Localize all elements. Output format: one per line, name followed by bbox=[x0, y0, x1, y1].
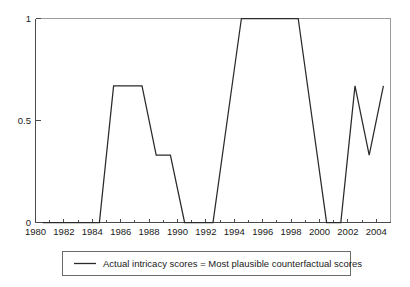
legend-entry-label: Actual intricacy scores = Most plausible… bbox=[103, 258, 362, 269]
chart-figure: 0 0.5 1 bbox=[0, 0, 410, 287]
x-tick-label-1994: 1994 bbox=[224, 226, 245, 237]
x-tick-label-1990: 1990 bbox=[167, 226, 188, 237]
x-tick-label-2002: 2002 bbox=[337, 226, 358, 237]
y-tick-label-2: 1 bbox=[26, 13, 31, 24]
x-tick-label-1988: 1988 bbox=[139, 226, 160, 237]
x-tick-label-1996: 1996 bbox=[252, 226, 273, 237]
x-tick-label-2000: 2000 bbox=[309, 226, 330, 237]
chart-legend: Actual intricacy scores = Most plausible… bbox=[63, 252, 363, 276]
x-tick-label-1980: 1980 bbox=[25, 226, 46, 237]
y-tick-label-1: 0.5 bbox=[18, 115, 31, 126]
x-tick-label-1992: 1992 bbox=[195, 226, 216, 237]
line-chart: 0 0.5 1 bbox=[0, 0, 410, 287]
x-tick-label-1984: 1984 bbox=[82, 226, 103, 237]
x-tick-label-1982: 1982 bbox=[53, 226, 74, 237]
x-tick-label-1986: 1986 bbox=[110, 226, 131, 237]
x-tick-label-1998: 1998 bbox=[281, 226, 302, 237]
x-tick-label-2004: 2004 bbox=[366, 226, 387, 237]
